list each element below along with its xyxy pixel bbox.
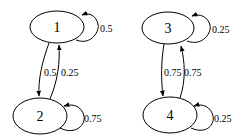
node-1-label: 1 [54, 20, 61, 35]
edge-4-4-label: 0.25 [214, 113, 232, 124]
edge-1-2-label: 0.5 [44, 67, 57, 78]
edge-2-2: 0.75 [60, 105, 102, 131]
node-3: 3 [142, 12, 194, 44]
markov-chain-diagram: 1 2 3 4 0.5 0.5 0.25 0.75 0.25 0.75 [0, 0, 243, 139]
node-2-label: 2 [37, 109, 44, 124]
edge-1-1-label: 0.5 [100, 23, 113, 34]
edge-2-2-label: 0.75 [84, 113, 102, 124]
edge-4-3-label: 0.75 [184, 67, 202, 78]
node-2: 2 [13, 98, 67, 134]
edge-1-1: 0.5 [76, 14, 113, 41]
node-4-label: 4 [167, 108, 174, 123]
edge-3-4-label: 0.75 [164, 67, 182, 78]
node-3-label: 3 [165, 21, 172, 36]
edge-3-3-label: 0.25 [212, 24, 230, 35]
edge-3-4: 0.75 [162, 44, 182, 96]
edge-2-1-label: 0.25 [61, 67, 79, 78]
node-4: 4 [143, 97, 197, 133]
edge-4-3: 0.75 [180, 46, 202, 98]
node-1: 1 [30, 11, 84, 43]
edge-3-3: 0.25 [187, 15, 230, 42]
